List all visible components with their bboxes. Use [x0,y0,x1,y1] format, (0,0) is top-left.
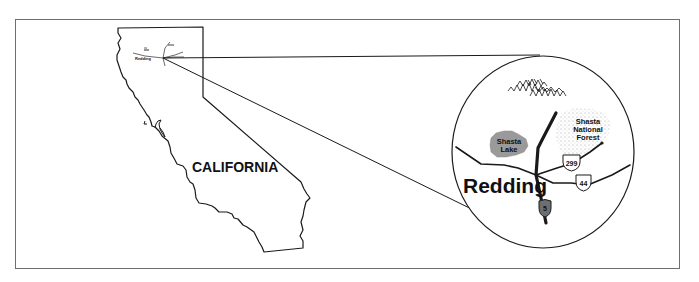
svg-text:44: 44 [580,180,588,187]
route-44-shield-icon: 44 [576,175,591,191]
city-label-redding: Redding [463,174,547,197]
inset-city-label: Redding [135,56,152,61]
svg-text:299: 299 [566,160,578,167]
map-svg: CALIFORNIA Redding [0,0,699,282]
forest-label-line3: Forest [577,133,600,142]
svg-text:5: 5 [543,205,547,212]
state-label: CALIFORNIA [192,159,278,175]
locator-map-figure: CALIFORNIA Redding [0,0,699,282]
interstate-5-shield-icon: 5 [539,200,551,218]
lake-label-line2: Lake [500,145,517,154]
detail-circle [452,56,634,248]
route-299-shield-icon: 299 [563,155,580,171]
redding-inset-small [133,42,184,66]
